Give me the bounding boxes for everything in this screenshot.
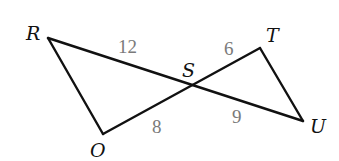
length-label-RS: 12 [118, 36, 137, 57]
vertex-label-U: U [310, 115, 327, 137]
vertex-label-O: O [90, 139, 106, 161]
length-label-OS: 8 [152, 116, 162, 137]
vertex-label-S: S [182, 59, 195, 81]
vertex-label-T: T [266, 24, 280, 46]
length-label-SU: 9 [232, 106, 242, 127]
length-label-ST: 6 [224, 38, 234, 59]
geometry-diagram: R S T U O 12 6 8 9 [0, 0, 339, 161]
vertex-label-R: R [25, 22, 40, 44]
segment-RU [48, 38, 303, 121]
